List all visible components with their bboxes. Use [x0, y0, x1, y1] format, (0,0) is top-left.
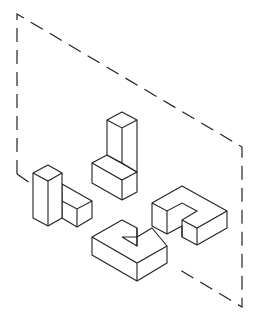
- isometric-diagram: [0, 0, 254, 321]
- shape-d-c-shaped-block: [92, 220, 167, 281]
- shape-b-tall-l-block: [92, 112, 137, 200]
- shape-c-hook-block: [152, 186, 227, 245]
- shape-a-pillar-with-step: [33, 165, 92, 227]
